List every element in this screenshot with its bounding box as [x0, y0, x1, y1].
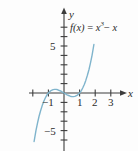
function-label-equals: =: [87, 22, 93, 33]
function-label: f(x) = x3− x: [70, 21, 117, 33]
y-tick-label-5: 5: [50, 41, 56, 52]
function-label-arg: (x): [73, 22, 85, 33]
graph-figure: f(x) = x3− x x y −1 1 2 3 5 −5: [0, 0, 138, 151]
cubic-function-plot: [0, 0, 138, 151]
y-tick-label-neg5: −5: [44, 126, 56, 137]
function-label-minus: −: [104, 22, 110, 33]
x-tick-label-3: 3: [108, 97, 114, 108]
x-tick-label-neg1: −1: [42, 97, 54, 108]
x-axis-label: x: [128, 88, 133, 99]
x-tick-label-1: 1: [77, 97, 83, 108]
y-axis: [61, 8, 68, 152]
y-axis-arrowhead: [61, 8, 67, 15]
x-tick-label-2: 2: [92, 97, 98, 108]
x-axis-arrowhead: [120, 90, 127, 96]
y-axis-label: y: [69, 9, 74, 20]
function-label-term: x: [112, 22, 117, 33]
